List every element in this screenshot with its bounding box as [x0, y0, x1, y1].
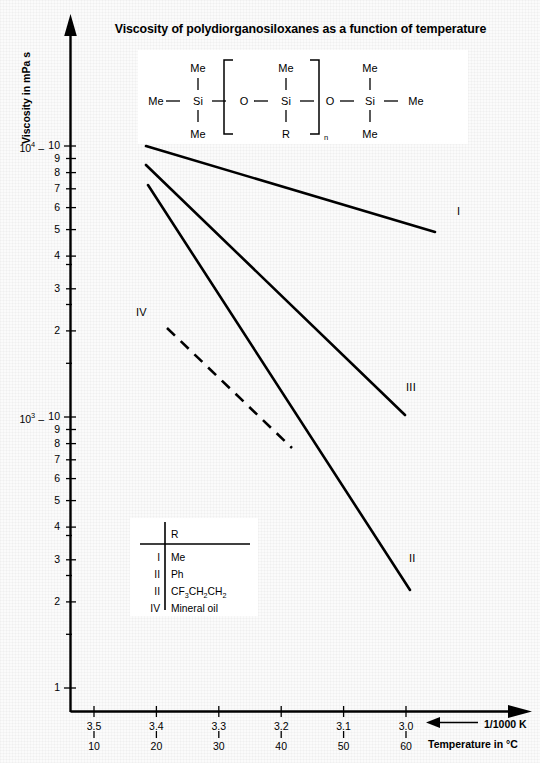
- structure-me-top-center: Me: [278, 62, 293, 74]
- structure-me-right: Me: [408, 95, 423, 107]
- y-tick-label: 7: [26, 454, 60, 464]
- x-tick-label-celsius: 10: [74, 740, 114, 752]
- chemical-structure-box: Me Me Me Me Si O Si O Si Me: [138, 50, 468, 144]
- y-tick-label: 8: [26, 167, 60, 177]
- x-direction-arrow-icon: [426, 717, 478, 728]
- y-tick-label: 6: [26, 202, 60, 212]
- x-tick-label-k: 3.1: [324, 720, 364, 732]
- legend-value-2: Ph: [171, 569, 184, 580]
- x-tick-label-k: 3.5: [74, 720, 114, 732]
- y-tick-label: 8: [26, 438, 60, 448]
- structure-si-left: Si: [193, 95, 203, 107]
- x-tick-label-k: 3.4: [136, 720, 176, 732]
- legend-value-4: Mineral oil: [171, 603, 218, 614]
- legend-value-3: CF3CH2CH2: [171, 586, 226, 600]
- y-tick-label: 7: [26, 183, 60, 193]
- chart-root: Viscosity of polydiorganosiloxanes as a …: [0, 0, 540, 763]
- y-tick-label: 4: [26, 250, 60, 260]
- x-tick-label-k: 3.0: [386, 720, 426, 732]
- legend-value-3-part: CH: [189, 586, 204, 597]
- structure-bracket-right: [310, 60, 319, 134]
- x-tick-label-celsius: 30: [199, 740, 239, 752]
- curve-label-I: I: [457, 205, 460, 217]
- structure-me-bottom-left: Me: [190, 128, 205, 140]
- curve-label-IV: IV: [136, 306, 147, 318]
- x-tick-marks-celsius: [94, 731, 406, 738]
- legend-roman-3: II: [154, 586, 160, 597]
- x-axis-unit-celsius: Temperature in °C: [428, 738, 518, 750]
- y-tick-label: 10: [26, 411, 60, 421]
- curve-label-II: II: [409, 552, 416, 564]
- structure-me-top-left: Me: [190, 62, 205, 74]
- legend-roman-2: II: [154, 569, 160, 580]
- y-tick-label: 9: [26, 424, 60, 434]
- x-tick-label-celsius: 40: [261, 740, 301, 752]
- legend-header-r: R: [171, 529, 178, 540]
- structure-si-center: Si: [281, 95, 291, 107]
- structure-si-right: Si: [365, 95, 375, 107]
- y-tick-label: 2: [26, 596, 60, 606]
- legend-roman-4: IV: [150, 603, 160, 614]
- structure-r-bottom: R: [282, 128, 290, 140]
- legend-value-3-part: CH: [208, 586, 223, 597]
- structure-o-left: O: [240, 95, 249, 107]
- legend-table: R I Me II Ph II CF3CH2CH2 IV Mineral oil: [130, 518, 258, 616]
- y-tick-label: 4: [26, 521, 60, 531]
- y-tick-label: 5: [26, 495, 60, 505]
- y-tick-label: 3: [26, 554, 60, 564]
- structure-me-left: Me: [148, 95, 163, 107]
- structure-subscript-n: n: [324, 133, 328, 142]
- y-tick-label: 1: [26, 682, 60, 692]
- curve-III: [146, 165, 405, 415]
- structure-me-top-right: Me: [362, 62, 377, 74]
- y-tick-label: 3: [26, 283, 60, 293]
- x-axis-unit-kelvin: 1/1000 K: [484, 718, 527, 730]
- curve-IV: [167, 328, 292, 448]
- y-tick-label: 5: [26, 224, 60, 234]
- x-tick-label-celsius: 60: [386, 740, 426, 752]
- structure-o-right: O: [326, 95, 335, 107]
- y-tick-label: 2: [26, 325, 60, 335]
- legend-value-3-part: 2: [222, 591, 226, 600]
- legend-value-3-part: CF: [171, 586, 185, 597]
- chemical-structure-diagram: Me Me Me Me Si O Si O Si Me: [138, 50, 468, 144]
- legend-roman-1: I: [157, 552, 160, 563]
- x-tick-label-celsius: 50: [324, 740, 364, 752]
- legend-value-1: Me: [171, 552, 186, 563]
- structure-bracket-left: [224, 60, 233, 134]
- y-tick-label: 9: [26, 153, 60, 163]
- y-tick-label: 10: [26, 140, 60, 150]
- y-tick-label: 6: [26, 473, 60, 483]
- curve-label-III: III: [406, 381, 416, 393]
- x-tick-label-celsius: 20: [136, 740, 176, 752]
- x-tick-label-k: 3.3: [199, 720, 239, 732]
- structure-me-bottom-right: Me: [362, 128, 377, 140]
- curve-I: [146, 146, 435, 232]
- x-axis: [71, 705, 533, 718]
- x-tick-label-k: 3.2: [261, 720, 301, 732]
- legend: R I Me II Ph II CF3CH2CH2 IV Mineral oil: [130, 518, 258, 616]
